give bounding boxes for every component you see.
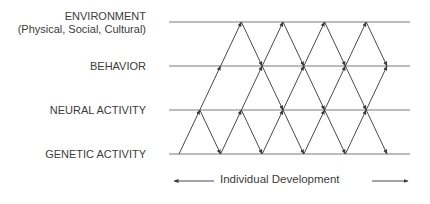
- influence-arrow-down-6: [200, 110, 221, 154]
- influence-arrow-down-17: [262, 66, 283, 110]
- influence-arrow-down-24: [325, 22, 346, 66]
- influence-arrow-down-19: [304, 66, 325, 110]
- influence-arrow-up-4: [345, 110, 366, 154]
- influence-arrow-down-23: [283, 22, 304, 66]
- influence-arrow-up-18: [304, 22, 325, 66]
- timeline-label: Individual Development: [218, 173, 342, 185]
- influence-arrow-up-2: [262, 110, 283, 154]
- influence-arrow-up-0: [179, 110, 200, 154]
- influence-arrow-up-5: [200, 66, 221, 110]
- influence-arrow-down-21: [345, 66, 366, 110]
- influence-arrow-up-9: [283, 66, 304, 110]
- influence-arrow-down-12: [325, 110, 346, 154]
- influence-arrow-up-13: [366, 66, 387, 110]
- influence-arrow-up-3: [304, 110, 325, 154]
- influence-arrow-down-22: [241, 22, 262, 66]
- influence-arrow-up-11: [325, 66, 346, 110]
- influence-arrow-down-8: [241, 110, 262, 154]
- influence-arrow-up-1: [221, 110, 242, 154]
- bidirectional-influence-diagram: [0, 0, 430, 204]
- influence-arrow-down-25: [366, 22, 387, 66]
- influence-arrow-up-20: [345, 22, 366, 66]
- influence-arrow-up-7: [241, 66, 262, 110]
- influence-arrow-up-16: [262, 22, 283, 66]
- influence-arrow-up-15: [221, 22, 242, 66]
- influence-arrow-down-10: [283, 110, 304, 154]
- influence-arrow-down-14: [366, 110, 387, 154]
